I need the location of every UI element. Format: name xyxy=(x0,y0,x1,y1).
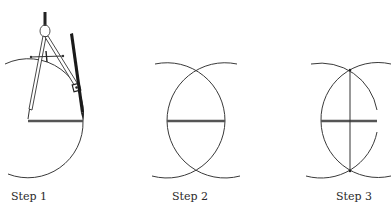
step-2-label: Step 2 xyxy=(172,190,208,203)
step-2-figure xyxy=(152,63,240,178)
step-1-figure xyxy=(5,12,84,178)
step-1-label: Step 1 xyxy=(11,190,47,203)
step-3-label: Step 3 xyxy=(336,190,372,203)
step-3-figure xyxy=(306,62,391,178)
step-3-arc-left-center xyxy=(311,63,377,110)
bisection-diagram xyxy=(0,0,391,217)
step-3-arc-left-center-lower xyxy=(306,132,377,178)
